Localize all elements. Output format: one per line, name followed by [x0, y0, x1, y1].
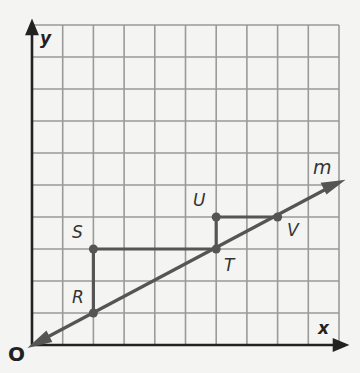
- point-u-dot: [212, 213, 221, 222]
- coordinate-grid-diagram: y x O m R S T U V: [0, 0, 360, 373]
- point-r-dot: [89, 309, 98, 318]
- point-s-label: S: [72, 222, 83, 242]
- line-m-arrow-end-icon: [323, 182, 340, 192]
- origin-label: O: [8, 342, 25, 366]
- point-s-dot: [89, 245, 98, 254]
- grid-svg: [0, 0, 360, 373]
- point-t-label: T: [224, 255, 234, 275]
- x-axis-arrow-icon: [334, 340, 346, 350]
- point-u-label: U: [193, 190, 205, 210]
- line-m-arrow-start-icon: [33, 333, 50, 345]
- x-axis-label: x: [318, 318, 329, 338]
- y-axis-arrow-icon: [27, 22, 37, 34]
- point-r-label: R: [72, 287, 84, 307]
- line-m: [33, 182, 340, 345]
- line-m-label: m: [313, 156, 332, 178]
- y-axis-label: y: [40, 28, 51, 48]
- point-v-label: V: [287, 220, 299, 240]
- point-v-dot: [273, 213, 282, 222]
- point-t-dot: [212, 245, 221, 254]
